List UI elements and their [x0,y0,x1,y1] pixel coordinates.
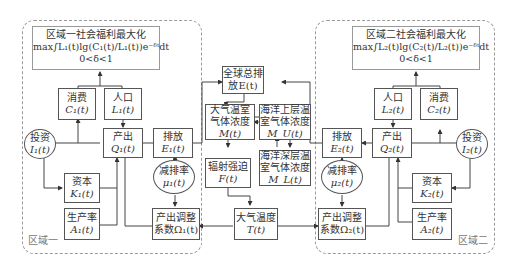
label: 辐射强迫 [208,161,248,173]
emission-box-2: 排放 E₂(t) [322,128,362,158]
var: A₁(t) [70,224,93,236]
label: 排放 [163,131,183,143]
abatement-ellipse-1: 减排率 μ₁(t) [153,160,195,194]
var: A₂(t) [420,224,443,236]
label: 系数Ω₂(t) [320,224,364,236]
label: 资本 [72,176,92,188]
label: 海洋上层温 [260,104,310,116]
atmos-temp-box: 大气温度 T(t) [234,208,278,240]
population-box-2: 人口 L₂(t) [374,88,412,120]
label: 室气体浓度 [260,162,310,174]
var: Q₁(t) [111,143,135,155]
var: M_L(t) [268,174,302,186]
var: I₂(t) [462,144,482,156]
capital-box-1: 资本 K₁(t) [64,173,100,203]
objective-formula: max∫L₂(t)lg(C₂(t)/L₂(t))e⁻ᵟᵗdt [353,41,479,53]
label: 生产率 [67,212,97,224]
label: 消费 [429,92,449,104]
objective-formula: max∫L₁(t)lg(C₁(t)/L₁(t))e⁻ᵟᵗdt [33,41,159,53]
adjustment-box-2: 产出调整 系数Ω₂(t) [318,208,366,240]
emission-box-1: 排放 E₁(t) [153,128,193,158]
var: I₁(t) [30,144,50,156]
investment-ellipse-1: 投资 I₁(t) [24,129,56,159]
label: 投资 [30,132,50,144]
label: 系数Ω₁(t) [154,224,198,236]
adjustment-box-1: 产出调整 系数Ω₁(t) [152,208,200,240]
radiative-forcing-box: 辐射强迫 F(t) [205,158,251,188]
label: 大气温室 [210,104,250,116]
var: L₂(t) [382,104,404,116]
var: E₂(t) [330,143,353,155]
var: C₂(t) [427,104,450,116]
label: 产出 [113,131,133,143]
global-emission-box: 全球总排 放E(t) [222,66,264,94]
var: E₁(t) [161,143,184,155]
deep-ocean-ghg-box: 海洋深层温 室气体浓度 M_L(t) [259,150,311,186]
consumption-box-2: 消费 C₂(t) [420,88,458,120]
label: 海洋深层温 [260,150,310,162]
output-box-1: 产出 Q₁(t) [103,128,143,158]
label: 人口 [383,92,403,104]
label: 资本 [422,176,442,188]
var: L₁(t) [112,104,134,116]
objective-constraint: 0<δ<1 [33,53,159,65]
var: M(t) [219,128,241,140]
var: Q₂(t) [380,143,404,155]
objective-title: 区域一社会福利最大化 [33,29,159,41]
population-box-1: 人口 L₁(t) [104,88,142,120]
output-box-2: 产出 Q₂(t) [372,128,412,158]
label: 投资 [462,132,482,144]
label: 放E(t) [228,80,257,92]
label: 消费 [67,92,87,104]
var: T(t) [247,224,266,236]
objective-title: 区域二社会福利最大化 [353,29,479,41]
upper-ocean-ghg-box: 海洋上层温 室气体浓度 M_U(t) [259,104,311,140]
label: 产出调整 [156,212,196,224]
var: F(t) [219,173,238,185]
label: 产出 [382,131,402,143]
productivity-box-1: 生产率 A₁(t) [64,208,100,240]
label: 减排率 [159,165,189,177]
label: 气体浓度 [210,116,250,128]
var: μ₂(t) [331,177,353,189]
var: μ₁(t) [163,177,185,189]
label: 产出调整 [322,212,362,224]
capital-box-2: 资本 K₂(t) [412,173,452,203]
consumption-box-1: 消费 C₁(t) [58,88,96,120]
var: M_U(t) [267,128,303,140]
label: 大气温度 [236,212,276,224]
abatement-ellipse-2: 减排率 μ₂(t) [321,160,363,194]
label: 生产率 [417,212,447,224]
productivity-box-2: 生产率 A₂(t) [412,208,452,240]
label: 室气体浓度 [260,116,310,128]
label: 排放 [332,131,352,143]
investment-ellipse-2: 投资 I₂(t) [456,129,488,159]
var: C₁(t) [65,104,88,116]
var: K₂(t) [420,188,443,200]
label: 全球总排 [223,68,263,80]
label: 人口 [113,92,133,104]
objective-constraint: 0<δ<1 [353,53,479,65]
var: K₁(t) [70,188,93,200]
label: 减排率 [327,165,357,177]
region-one-objective: 区域一社会福利最大化 max∫L₁(t)lg(C₁(t)/L₁(t))e⁻ᵟᵗd… [32,26,160,70]
region-two-objective: 区域二社会福利最大化 max∫L₂(t)lg(C₂(t)/L₂(t))e⁻ᵟᵗd… [352,26,480,70]
atmos-ghg-box: 大气温室 气体浓度 M(t) [205,104,255,140]
